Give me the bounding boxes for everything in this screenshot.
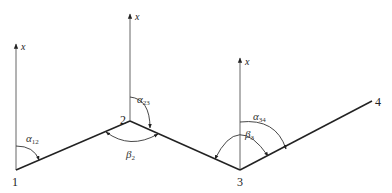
link-3-4: [240, 101, 372, 170]
label-alpha34: α34: [253, 110, 266, 124]
node-label-4: 4: [375, 95, 381, 109]
x-axis-1: x: [16, 41, 26, 170]
node-label-1: 1: [12, 175, 18, 189]
x-axis-label-2: x: [134, 11, 140, 22]
label-beta2: β2: [125, 148, 135, 162]
label-alpha23: α23: [137, 93, 150, 107]
arc-alpha12: [16, 146, 39, 160]
node-label-2: 2: [120, 113, 126, 127]
arc-beta2: [106, 132, 158, 142]
links: [16, 101, 372, 170]
x-axis-label-3: x: [244, 56, 250, 67]
kinematic-chain-diagram: x x x α12 α23 β2 β3 α34 1 2 3 4: [0, 0, 392, 193]
arc-beta3: [215, 135, 268, 159]
label-beta3: β3: [244, 128, 254, 142]
x-axis-label-1: x: [20, 41, 26, 52]
label-alpha12: α12: [26, 132, 39, 146]
node-label-3: 3: [237, 175, 243, 189]
x-axis-3: x: [240, 56, 250, 170]
